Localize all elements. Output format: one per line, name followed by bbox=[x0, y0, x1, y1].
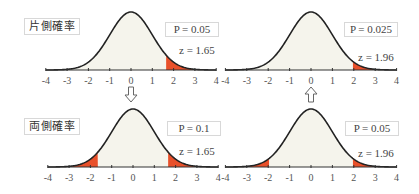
x-tick-label: 0 bbox=[131, 172, 136, 183]
x-tick-label: 0 bbox=[309, 172, 314, 183]
x-tick-label: -4 bbox=[221, 172, 229, 183]
x-tick-label: -1 bbox=[285, 75, 293, 86]
down-arrow-icon bbox=[125, 87, 137, 102]
p-value-box-top-left: P = 0.05 bbox=[165, 22, 219, 37]
x-tick-label: 1 bbox=[330, 75, 335, 86]
x-tick-label: 3 bbox=[373, 172, 378, 183]
x-tick-label: 2 bbox=[351, 75, 356, 86]
x-tick-label: 3 bbox=[373, 75, 378, 86]
x-tick-label: -3 bbox=[243, 75, 251, 86]
x-tick-label: 4 bbox=[216, 172, 221, 183]
two-sided-label: 両側確率 bbox=[24, 118, 80, 135]
z-label-top-left: z = 1.65 bbox=[179, 44, 215, 56]
x-tick-label: 0 bbox=[309, 75, 314, 86]
normal-distribution-figure: -4-3-2-101234-4-3-2-101234-4-3-2-101234-… bbox=[0, 0, 419, 194]
x-tick-label: -2 bbox=[264, 172, 272, 183]
up-arrow-icon bbox=[305, 87, 317, 102]
p-value-box-top-right: P = 0.025 bbox=[344, 22, 398, 37]
x-tick-label: 3 bbox=[192, 75, 197, 86]
p-value-box-bottom-left: P = 0.1 bbox=[167, 121, 221, 136]
x-tick-label: 3 bbox=[194, 172, 199, 183]
x-tick-label: -4 bbox=[44, 172, 52, 183]
x-tick-label: -1 bbox=[108, 172, 116, 183]
x-tick-label: 4 bbox=[214, 75, 219, 86]
x-tick-label: 2 bbox=[351, 172, 356, 183]
x-tick-label: -4 bbox=[42, 75, 50, 86]
x-tick-label: -3 bbox=[65, 172, 73, 183]
p-value-box-bottom-right: P = 0.05 bbox=[345, 121, 399, 136]
x-tick-label: -3 bbox=[243, 172, 251, 183]
x-tick-label: 4 bbox=[394, 75, 399, 86]
x-tick-label: 1 bbox=[150, 75, 155, 86]
z-label-bottom-left: z = 1.65 bbox=[179, 145, 215, 157]
x-tick-label: 2 bbox=[173, 172, 178, 183]
one-sided-label: 片側確率 bbox=[24, 18, 80, 35]
x-tick-label: 1 bbox=[152, 172, 157, 183]
x-tick-label: 0 bbox=[129, 75, 134, 86]
x-tick-label: -2 bbox=[264, 75, 272, 86]
x-tick-label: 1 bbox=[330, 172, 335, 183]
x-tick-label: -2 bbox=[86, 172, 94, 183]
x-tick-label: -4 bbox=[221, 75, 229, 86]
x-tick-label: -1 bbox=[285, 172, 293, 183]
z-label-top-right: z = 1.96 bbox=[358, 51, 394, 63]
x-tick-label: 2 bbox=[171, 75, 176, 86]
x-tick-label: -2 bbox=[84, 75, 92, 86]
x-tick-label: -3 bbox=[63, 75, 71, 86]
z-label-bottom-right: z = 1.96 bbox=[358, 147, 394, 159]
x-tick-label: 4 bbox=[394, 172, 399, 183]
x-tick-label: -1 bbox=[106, 75, 114, 86]
